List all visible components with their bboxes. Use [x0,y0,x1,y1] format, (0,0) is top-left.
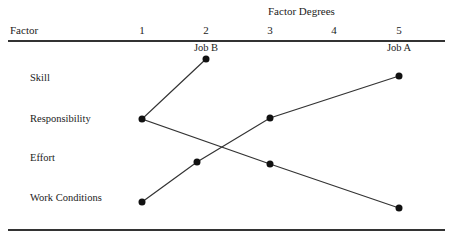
plot-area [0,0,449,234]
job-b-point-effort [267,161,274,168]
job-b-point-work-conditions [396,205,403,212]
job-b-point-skill [203,56,210,63]
job-a-series [142,76,399,202]
job-a-point-work-conditions [139,199,146,206]
job-b-series [142,59,399,208]
job-b-point-responsibility [139,116,146,123]
job-a-point-effort [194,159,201,166]
job-a-point-responsibility [267,115,274,122]
job-a-point-skill [396,73,403,80]
